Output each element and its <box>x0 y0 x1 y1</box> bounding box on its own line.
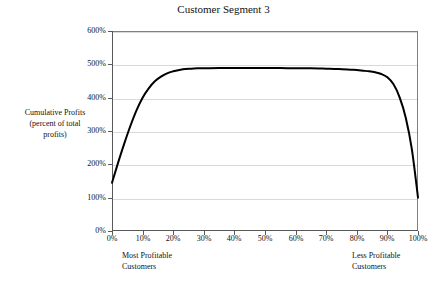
y-tick-label-400%: 400% <box>62 93 106 102</box>
less-profitable-line-1: Less Profitable <box>352 250 400 261</box>
y-axis-title: Cumulative Profits (percent of total pro… <box>6 107 104 140</box>
less-profitable-line-2: Customers <box>352 261 400 272</box>
y-tick-label-500%: 500% <box>62 59 106 68</box>
most-profitable-line-1: Most Profitable <box>122 250 172 261</box>
most-profitable-line-2: Customers <box>122 261 172 272</box>
less-profitable-customers-note: Less Profitable Customers <box>352 250 400 272</box>
most-profitable-customers-note: Most Profitable Customers <box>122 250 172 272</box>
y-tick-label-200%: 200% <box>62 159 106 168</box>
cumulative-profits-curve <box>112 68 418 198</box>
y-tick-label-100%: 100% <box>62 193 106 202</box>
y-axis-title-line-2: (percent of total <box>6 118 104 129</box>
chart-container: Customer Segment 3 0%100%200%300%400%500… <box>0 0 447 289</box>
y-axis-title-line-1: Cumulative Profits <box>6 107 104 118</box>
x-tick-label-100%: 100% <box>398 234 438 243</box>
y-tick-label-600%: 600% <box>62 26 106 35</box>
y-axis-title-line-3: profits) <box>6 129 104 140</box>
chart-title: Customer Segment 3 <box>0 3 447 16</box>
data-curve-layer <box>112 31 418 231</box>
